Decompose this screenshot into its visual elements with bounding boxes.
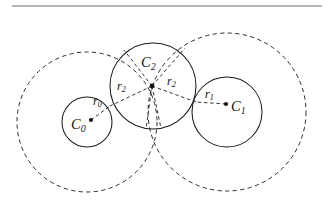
label-r1-base: r bbox=[205, 87, 210, 101]
label-c2-subscript: 2 bbox=[151, 61, 156, 72]
radius-line-r2-down-right bbox=[152, 86, 161, 128]
label-c2: C2 bbox=[141, 55, 156, 70]
center-dot-c0 bbox=[89, 118, 93, 122]
label-r0: r0 bbox=[93, 95, 102, 107]
label-r2-right: r2 bbox=[167, 75, 176, 87]
dashed-circle-c1 bbox=[148, 33, 306, 191]
circle-c0 bbox=[62, 97, 112, 147]
dashed-circle-c0 bbox=[17, 52, 157, 192]
label-r1-subscript: 1 bbox=[210, 93, 214, 102]
label-c1-base: C bbox=[231, 98, 241, 114]
label-c0-base: C bbox=[71, 116, 81, 132]
label-c0-subscript: 0 bbox=[81, 123, 86, 134]
label-r0-subscript: 0 bbox=[98, 100, 102, 109]
label-r2-right-subscript: 2 bbox=[172, 80, 176, 89]
label-c2-base: C bbox=[141, 54, 151, 70]
label-r2-right-base: r bbox=[167, 74, 172, 88]
radius-line-r1 bbox=[196, 102, 226, 104]
geometry-figure-canvas bbox=[0, 0, 328, 211]
label-c1: C1 bbox=[231, 99, 246, 114]
label-r0-base: r bbox=[93, 94, 98, 108]
center-dot-c2 bbox=[150, 84, 155, 89]
circle-c1 bbox=[192, 77, 262, 147]
figure-container: C0 C1 C2 r0 r1 r2 r2 bbox=[0, 0, 328, 211]
label-r2-left: r2 bbox=[117, 80, 126, 92]
label-r1: r1 bbox=[205, 88, 214, 100]
center-dot-c1 bbox=[224, 102, 228, 106]
label-r2-left-subscript: 2 bbox=[122, 85, 126, 94]
label-r2-left-base: r bbox=[117, 79, 122, 93]
label-c0: C0 bbox=[71, 117, 86, 132]
label-c1-subscript: 1 bbox=[241, 105, 246, 116]
